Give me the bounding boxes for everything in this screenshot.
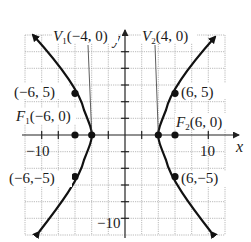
f2-label: F2(6, 0) bbox=[175, 114, 222, 132]
vertex-v2-point bbox=[155, 131, 162, 138]
point-neg6-neg5 bbox=[71, 173, 78, 180]
v2-label: V2(4, 0) bbox=[142, 28, 188, 46]
x-axis-label: x bbox=[235, 138, 243, 155]
vertex-v1-point bbox=[88, 131, 95, 138]
point-neg6-5-label: (−6, 5) bbox=[14, 84, 55, 101]
point-neg6-5 bbox=[71, 90, 78, 97]
point-6-neg5-label: (6,−5) bbox=[181, 170, 218, 187]
point-6-5-label: (6, 5) bbox=[181, 84, 214, 101]
point-6-neg5 bbox=[171, 173, 178, 180]
v1-label: V1(−4, 0) bbox=[53, 28, 108, 46]
point-6-5 bbox=[171, 90, 178, 97]
hyperbola-diagram: x y 10 −10 −10 V1(−4, 0) V2(4, 0) (−6, 5… bbox=[0, 0, 251, 242]
focus-f1-point bbox=[71, 131, 78, 138]
f1-label: F1(−6, 0) bbox=[15, 108, 71, 126]
v2-leader bbox=[155, 45, 158, 133]
hyperbola bbox=[33, 35, 215, 232]
x-tick-label-neg10: −10 bbox=[26, 143, 49, 159]
point-neg6-neg5-label: (−6,−5) bbox=[9, 170, 55, 187]
focus-f2-point bbox=[171, 131, 178, 138]
x-tick-label-10: 10 bbox=[200, 143, 215, 159]
y-tick-label-neg10: −10 bbox=[97, 215, 120, 231]
